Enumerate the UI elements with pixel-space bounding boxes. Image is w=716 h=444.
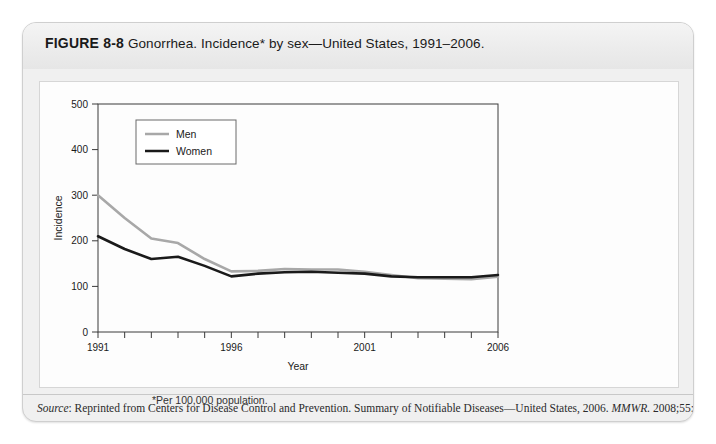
- series-line-men: [98, 195, 498, 279]
- x-axis-tick-labels: 1991 1996 2001 2006: [87, 342, 510, 353]
- x-tick-1996: 1996: [220, 342, 243, 353]
- y-axis-tick-labels: 0 100 200 300 400 500: [71, 99, 88, 338]
- x-tick-2006: 2006: [487, 342, 510, 353]
- figure-caption: FIGURE 8-8 Gonorrhea. Incidence* by sex—…: [45, 35, 485, 51]
- source-divider: [23, 394, 693, 395]
- line-chart: 0 100 200 300 400 500 Incidence: [40, 82, 680, 389]
- figure-card: FIGURE 8-8 Gonorrhea. Incidence* by sex—…: [22, 22, 694, 422]
- source-text-after: 2008;55:52.: [650, 402, 694, 414]
- y-tick-400: 400: [71, 144, 88, 155]
- series-line-women: [98, 236, 498, 277]
- chart-panel: 0 100 200 300 400 500 Incidence: [39, 81, 679, 388]
- y-axis-title: Incidence: [52, 195, 64, 240]
- y-tick-300: 300: [71, 190, 88, 201]
- figure-title: Gonorrhea. Incidence* by sex—United Stat…: [128, 36, 485, 51]
- source-journal-name: MMWR.: [611, 402, 650, 414]
- y-tick-500: 500: [71, 99, 88, 110]
- legend-label-women: Women: [176, 145, 212, 157]
- x-axis-ticks: [98, 332, 498, 338]
- figure-number-label: FIGURE 8-8: [45, 35, 124, 51]
- source-citation: Source: Reprinted from Centers for Disea…: [37, 402, 694, 414]
- y-tick-100: 100: [71, 281, 88, 292]
- source-text-before: Reprinted from Centers for Disease Contr…: [75, 402, 612, 414]
- x-tick-1991: 1991: [87, 342, 110, 353]
- y-tick-0: 0: [82, 327, 88, 338]
- source-label: Source: [37, 402, 69, 414]
- x-tick-2001: 2001: [354, 342, 377, 353]
- x-axis-title: Year: [287, 360, 309, 372]
- y-tick-200: 200: [71, 235, 88, 246]
- chart-legend: Men Women: [136, 120, 236, 164]
- y-axis-ticks: [92, 104, 98, 332]
- legend-label-men: Men: [176, 128, 197, 140]
